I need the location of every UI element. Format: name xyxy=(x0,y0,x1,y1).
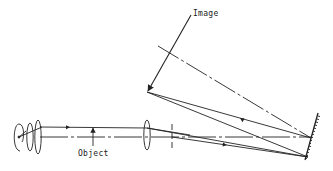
light-source-icon xyxy=(14,124,26,151)
illumination-ray xyxy=(40,127,147,128)
image-arrow-icon xyxy=(148,15,191,91)
optical-diagram xyxy=(0,0,333,171)
objective-lens xyxy=(144,120,150,150)
object-label: Object xyxy=(78,149,109,158)
reflected-ray xyxy=(147,92,311,138)
reflected-axis xyxy=(158,46,311,138)
image-label: Image xyxy=(193,9,219,18)
condenser-lens-1 xyxy=(27,123,33,151)
